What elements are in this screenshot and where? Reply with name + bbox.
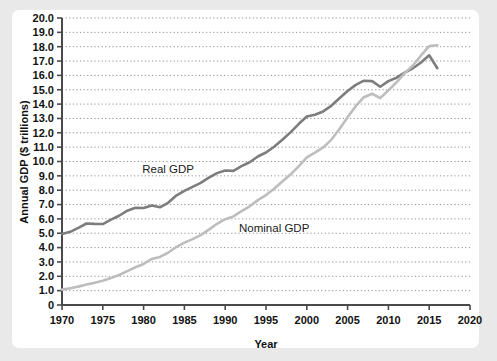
x-tick-label: 1985 [172,314,196,326]
series-label: Nominal GDP [239,222,310,234]
x-tick-label: 2015 [417,314,441,326]
y-tick-label: 2.0 [39,270,54,282]
y-tick-label: 8.0 [39,184,54,196]
y-tick-label: 15.0 [33,84,54,96]
x-tick-label: 2000 [295,314,319,326]
y-tick-label: 20.0 [33,12,54,24]
x-axis-title: Year [254,338,278,350]
y-tick-label: 11.0 [33,141,54,153]
series-line [62,45,437,289]
y-tick-labels: 01.02.03.04.05.06.07.08.09.010.011.012.0… [33,12,54,311]
series-lines [62,45,437,289]
chart-figure: 01.02.03.04.05.06.07.08.09.010.011.012.0… [0,0,497,361]
y-tick-label: 19.0 [33,26,54,38]
y-tick-label: 9.0 [39,170,54,182]
y-tick-label: 12.0 [33,127,54,139]
y-tick-label: 18.0 [33,41,54,53]
y-tick-label: 14.0 [33,98,54,110]
y-tick-label: 13.0 [33,112,54,124]
x-tick-label: 2020 [458,314,482,326]
y-tick-label: 3.0 [39,256,54,268]
x-tick-label: 2005 [335,314,359,326]
x-tick-label: 1990 [213,314,237,326]
series-annotations: Real GDPNominal GDP [142,163,309,234]
y-tick-label: 16.0 [33,69,54,81]
y-tick-label: 6.0 [39,213,54,225]
x-tick-label: 1970 [50,314,74,326]
x-tick-label: 2010 [376,314,400,326]
x-tick-label: 1980 [131,314,155,326]
y-tick-label: 10.0 [33,155,54,167]
x-tick-labels: 1970197519801985199019952000200520102015… [50,314,482,326]
y-tick-label: 1.0 [39,284,54,296]
x-tick-label: 1995 [254,314,278,326]
y-tick-label: 17.0 [33,55,54,67]
y-tick-label: 0 [48,299,54,311]
y-tick-label: 5.0 [39,227,54,239]
gridlines [62,18,470,291]
line-chart: 01.02.03.04.05.06.07.08.09.010.011.012.0… [0,0,497,361]
y-tick-label: 4.0 [39,241,54,253]
y-tick-label: 7.0 [39,198,54,210]
y-axis-title: Annual GDP ($ trillions) [18,100,30,224]
x-tick-label: 1975 [91,314,115,326]
series-label: Real GDP [142,163,194,175]
